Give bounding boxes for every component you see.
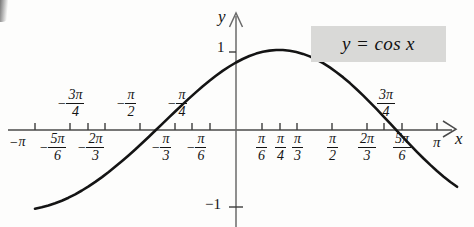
fraction: 2π3 [86, 132, 104, 163]
x-tick-label-neg-2pi-3: −2π3 [78, 132, 104, 163]
fraction: 5π6 [48, 132, 66, 163]
fraction: 3π4 [66, 88, 84, 119]
fraction-numerator: 5π [393, 132, 411, 148]
fraction-numerator: π [292, 132, 303, 148]
minus-sign: − [58, 97, 66, 111]
x-tick-label-5pi-6: 5π6 [393, 132, 411, 163]
tick-symbol: π [18, 134, 25, 149]
fraction-numerator: π [160, 132, 171, 148]
x-tick-label-pi: π [433, 135, 441, 150]
fraction: π6 [256, 132, 267, 163]
x-tick-label-neg-pi-6: −π6 [187, 132, 206, 163]
fraction-denominator: 4 [66, 104, 84, 119]
fraction-numerator: 5π [48, 132, 66, 148]
x-tick-label-pi-6: π6 [256, 132, 267, 163]
x-tick-label-neg-pi: −π [10, 135, 25, 150]
fraction-denominator: 3 [160, 148, 171, 163]
fraction-numerator: π [195, 132, 206, 148]
fraction-denominator: 2 [327, 148, 338, 163]
fraction-denominator: 3 [292, 148, 303, 163]
x-tick-label-pi-3: π3 [292, 132, 303, 163]
fraction-denominator: 4 [176, 104, 187, 119]
fraction-numerator: π [327, 132, 338, 148]
fraction-denominator: 4 [275, 148, 286, 163]
x-tick-label-neg-3pi-4: −3π4 [58, 88, 84, 119]
fraction: π2 [125, 88, 136, 119]
fraction-numerator: π [125, 88, 136, 104]
y-axis [230, 13, 243, 227]
fraction-denominator: 6 [48, 148, 66, 163]
cosine-graph-figure: y 1 −1 x y = cos x −π −5π6 −3π4 −2π3 −π2… [0, 0, 474, 227]
minus-sign: − [117, 97, 125, 111]
fraction-numerator: 3π [66, 88, 84, 104]
fraction-denominator: 3 [358, 148, 376, 163]
fraction-numerator: 2π [86, 132, 104, 148]
minus-sign: − [10, 136, 18, 150]
fraction: 5π6 [393, 132, 411, 163]
fraction-denominator: 4 [377, 104, 395, 119]
x-tick-label-3pi-4: 3π4 [377, 88, 395, 119]
fraction-numerator: 3π [377, 88, 395, 104]
fraction-numerator: π [176, 88, 187, 104]
fraction-denominator: 6 [393, 148, 411, 163]
minus-sign: − [187, 141, 195, 155]
x-tick-label-pi-4: π4 [275, 132, 286, 163]
x-tick-label-neg-pi-3: −π3 [152, 132, 171, 163]
x-tick-label-neg-5pi-6: −5π6 [40, 132, 66, 163]
fraction: π4 [176, 88, 187, 119]
minus-sign: − [78, 141, 86, 155]
fraction-denominator: 3 [86, 148, 104, 163]
y-tick-label-neg-1: −1 [205, 197, 221, 212]
fraction: π2 [327, 132, 338, 163]
tick-symbol: π [433, 134, 441, 150]
fraction: 3π4 [377, 88, 395, 119]
x-tick-label-pi-2: π2 [327, 132, 338, 163]
fraction-denominator: 2 [125, 104, 136, 119]
fraction: π3 [160, 132, 171, 163]
fraction-numerator: π [275, 132, 286, 148]
minus-sign: − [168, 97, 176, 111]
minus-sign: − [40, 141, 48, 155]
fraction-denominator: 6 [256, 148, 267, 163]
fraction: π6 [195, 132, 206, 163]
x-tick-label-neg-pi-2: −π2 [117, 88, 136, 119]
x-tick-label-2pi-3: 2π3 [358, 132, 376, 163]
x-tick-label-neg-pi-4: −π4 [168, 88, 187, 119]
equation-text: y = cos x [342, 33, 415, 55]
equation-callout-box: y = cos x [311, 26, 446, 62]
fraction: 2π3 [358, 132, 376, 163]
fraction-numerator: π [256, 132, 267, 148]
y-tick-label-1: 1 [217, 40, 225, 55]
axis-label-y: y [218, 8, 226, 25]
fraction: π4 [275, 132, 286, 163]
axis-label-x: x [455, 130, 463, 147]
minus-sign: − [152, 141, 160, 155]
fraction-denominator: 6 [195, 148, 206, 163]
fraction-numerator: 2π [358, 132, 376, 148]
fraction: π3 [292, 132, 303, 163]
